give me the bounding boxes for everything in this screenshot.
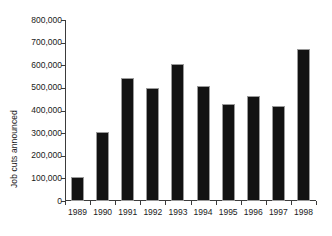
bar	[71, 177, 84, 201]
bar	[146, 88, 159, 201]
x-axis-tick-mark	[90, 201, 91, 205]
y-axis-tick-labels: 0100,000200,000300,000400,000500,000600,…	[18, 14, 62, 206]
bar	[247, 96, 260, 201]
bar	[197, 86, 210, 201]
x-axis-tick-mark	[65, 201, 66, 205]
x-axis-tick-mark	[165, 201, 166, 205]
y-axis-tick-label: 700,000	[18, 38, 62, 47]
bar	[222, 104, 235, 201]
y-axis-tick-label: 100,000	[18, 174, 62, 183]
x-axis-tick-mark	[191, 201, 192, 205]
bar	[171, 64, 184, 201]
x-axis-tick-mark	[291, 201, 292, 205]
y-axis-tick-label: 800,000	[18, 16, 62, 25]
plot-area	[65, 20, 316, 201]
x-axis-tick-mark	[216, 201, 217, 205]
x-axis-tick-label: 1998	[288, 207, 318, 217]
y-axis-tick-mark	[61, 43, 65, 44]
y-axis-tick-label: 400,000	[18, 106, 62, 115]
bar	[96, 132, 109, 201]
x-axis-tick-labels: 1989199019911992199319941995199619971998	[65, 207, 316, 221]
y-axis-tick-mark	[61, 88, 65, 89]
bar	[272, 106, 285, 201]
y-axis-tick-label: 600,000	[18, 61, 62, 70]
bar	[121, 78, 134, 201]
y-axis-tick-mark	[61, 65, 65, 66]
x-axis-tick-mark	[316, 201, 317, 205]
y-axis-tick-label: 500,000	[18, 83, 62, 92]
x-axis-tick-mark	[115, 201, 116, 205]
x-axis-tick-mark	[140, 201, 141, 205]
y-axis-tick-label: 0	[18, 197, 62, 206]
y-axis-tick-mark	[61, 178, 65, 179]
y-axis-tick-mark	[61, 156, 65, 157]
y-axis-tick-label: 300,000	[18, 129, 62, 138]
y-axis-tick-label: 200,000	[18, 151, 62, 160]
bar	[297, 49, 310, 201]
x-axis-tick-mark	[266, 201, 267, 205]
bar-chart: Job cuts announced 0100,000200,000300,00…	[0, 0, 332, 236]
x-axis-tick-mark	[241, 201, 242, 205]
y-axis-tick-mark	[61, 111, 65, 112]
y-axis-tick-mark	[61, 20, 65, 21]
y-axis-tick-mark	[61, 133, 65, 134]
